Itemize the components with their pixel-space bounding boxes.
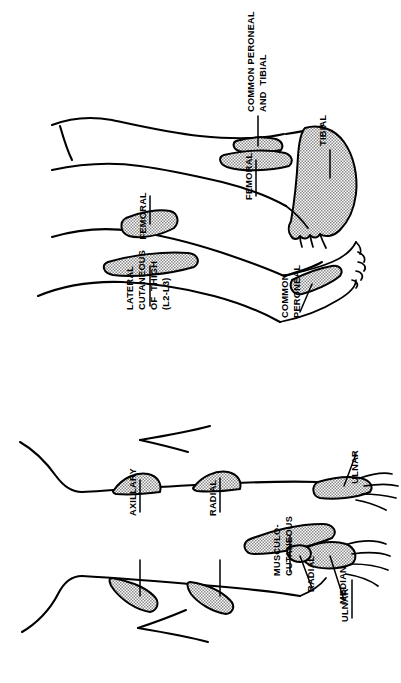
label-line: OF THIGH [149,261,159,310]
label-line: COMMON PERONEAL [246,11,256,112]
label-line: COMMON [280,273,290,318]
label-line: MUSCULO- [272,524,282,576]
label-femoral-anterior: FEMORAL [138,192,148,240]
label-radial-wrist: RADIAL [306,555,316,592]
nerve-block-diagram: COMMON PERONEAL AND TIBIAL TIBIAL FEMORA… [0,0,401,683]
label-line: (L2-L3) [161,277,171,310]
label-line: AND TIBIAL [258,54,268,112]
label-axillary: AXILLARY [128,468,138,516]
anatomical-figure: COMMON PERONEAL AND TIBIAL TIBIAL FEMORA… [0,0,401,683]
label-femoral-posterior: FEMORAL [244,152,254,200]
label-ulnar-dorsal: ULNAR [350,450,360,484]
label-line: PERONEAL [292,264,302,318]
label-line: LATERAL [125,266,135,310]
label-line: CUTANEOUS [284,516,294,576]
label-ulnar-palmar: ULNAR [340,588,350,622]
label-tibial: TIBIAL [318,115,328,146]
label-line: CUTANEOUS [137,250,147,310]
label-radial-upper: RADIAL [208,479,218,516]
